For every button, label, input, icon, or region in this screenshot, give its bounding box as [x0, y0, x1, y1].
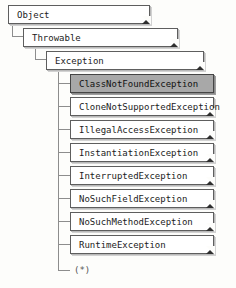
- fold-corner-cut-icon: [170, 39, 179, 48]
- fold-corner-cut-icon: [206, 246, 215, 255]
- connector-stub-instantiation: [58, 152, 70, 153]
- node-exception[interactable]: Exception: [46, 51, 204, 70]
- node-illegal-access-exception[interactable]: IllegalAccessException: [70, 120, 214, 139]
- connector-throwable-to-exception-vertical: [35, 46, 36, 60]
- node-no-such-field-exception-label: NoSuchFieldException: [79, 194, 187, 204]
- connector-stub-illegal-access: [58, 129, 70, 130]
- node-object[interactable]: Object: [8, 5, 150, 24]
- connector-stub-terminator: [58, 270, 70, 271]
- node-interrupted-exception[interactable]: InterruptedException: [70, 166, 214, 185]
- node-no-such-method-exception[interactable]: NoSuchMethodException: [70, 212, 214, 231]
- node-no-such-field-exception[interactable]: NoSuchFieldException: [70, 189, 214, 208]
- node-clone-not-supported-exception-label: CloneNotSupportedException: [79, 102, 220, 112]
- node-clone-not-supported-exception[interactable]: CloneNotSupportedException: [70, 97, 214, 116]
- node-runtime-exception-label: RuntimeException: [79, 240, 166, 250]
- connector-stub-runtime: [58, 244, 70, 245]
- fold-corner-cut-icon: [206, 223, 215, 232]
- connector-exception-trunk: [58, 69, 59, 270]
- node-illegal-access-exception-label: IllegalAccessException: [79, 125, 198, 135]
- node-exception-label: Exception: [55, 56, 104, 66]
- node-interrupted-exception-label: InterruptedException: [79, 171, 187, 181]
- fold-corner-cut-icon: [196, 62, 205, 71]
- fold-corner-cut-icon: [206, 200, 215, 209]
- node-class-not-found-exception-label: ClassNotFoundException: [79, 79, 198, 89]
- node-instantiation-exception-label: InstantiationException: [79, 148, 198, 158]
- fold-corner-cut-icon: [142, 16, 151, 25]
- node-runtime-exception[interactable]: RuntimeException: [70, 235, 214, 254]
- class-hierarchy-diagram: Object Throwable Exception ClassNotFound…: [0, 0, 236, 288]
- fold-corner-cut-icon: [206, 154, 215, 163]
- node-class-not-found-exception[interactable]: ClassNotFoundException: [70, 74, 214, 93]
- fold-corner-cut-icon: [206, 177, 215, 186]
- terminator-label: (*): [74, 265, 90, 275]
- node-throwable[interactable]: Throwable: [23, 28, 178, 47]
- connector-stub-no-such-field: [58, 198, 70, 199]
- connector-stub-no-such-method: [58, 221, 70, 222]
- fold-corner-cut-icon: [206, 131, 215, 140]
- node-object-label: Object: [17, 10, 50, 20]
- node-throwable-label: Throwable: [32, 33, 81, 43]
- connector-object-to-throwable-vertical: [12, 23, 13, 37]
- node-no-such-method-exception-label: NoSuchMethodException: [79, 217, 193, 227]
- connector-stub-interrupted: [58, 175, 70, 176]
- node-instantiation-exception[interactable]: InstantiationException: [70, 143, 214, 162]
- connector-stub-class-not-found: [58, 83, 70, 84]
- connector-stub-clone-not-supported: [58, 106, 70, 107]
